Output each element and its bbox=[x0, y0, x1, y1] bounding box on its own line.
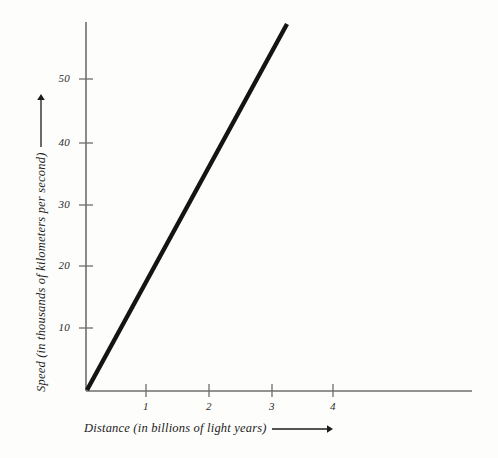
x-tick-label-2: 2 bbox=[199, 400, 219, 412]
x-tick-label-1: 1 bbox=[136, 400, 156, 412]
plot-canvas bbox=[0, 0, 498, 458]
data-series-line bbox=[87, 24, 287, 390]
x-axis-title: Distance (in billions of light years) bbox=[84, 421, 267, 436]
y-axis-title: Speed (in thousands of kilometers per se… bbox=[34, 152, 49, 392]
x-tick-label-4: 4 bbox=[323, 400, 343, 412]
right-arrow-icon bbox=[272, 423, 334, 435]
x-axis-title-group: Distance (in billions of light years) bbox=[84, 421, 334, 436]
chart-figure: 50 40 30 20 10 1 2 3 4 Distance (in bill… bbox=[0, 0, 498, 458]
up-arrow-icon bbox=[35, 93, 47, 147]
x-tick-label-3: 3 bbox=[262, 400, 282, 412]
y-axis-title-group: Speed (in thousands of kilometers per se… bbox=[30, 52, 52, 392]
